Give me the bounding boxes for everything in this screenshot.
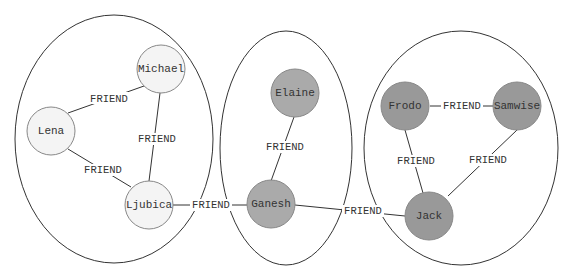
- node-lena[interactable]: Lena: [27, 107, 75, 155]
- node-ganesh[interactable]: Ganesh: [247, 180, 295, 228]
- node-label: Lena: [38, 125, 65, 137]
- edge-label: FRIEND: [192, 199, 230, 211]
- node-jack[interactable]: Jack: [405, 192, 453, 240]
- edge-label: FRIEND: [344, 205, 382, 217]
- node-label: Frodo: [388, 100, 421, 112]
- node-label: Elaine: [275, 87, 315, 99]
- node-samwise[interactable]: Samwise: [493, 82, 541, 130]
- node-frodo[interactable]: Frodo: [381, 82, 429, 130]
- community-cluster-3: [364, 31, 558, 265]
- edge-label: FRIEND: [84, 164, 122, 176]
- node-label: Ljubica: [126, 199, 173, 211]
- node-label: Jack: [416, 210, 443, 222]
- node-elaine[interactable]: Elaine: [271, 69, 319, 117]
- node-michael[interactable]: Michael: [137, 45, 185, 93]
- edge-label: FRIEND: [266, 141, 304, 153]
- friendship-graph: FRIEND FRIEND FRIEND FRIEND FRIEND FRIEN…: [0, 0, 578, 280]
- node-label: Ganesh: [251, 198, 291, 210]
- edge-label: FRIEND: [469, 154, 507, 166]
- node-ljubica[interactable]: Ljubica: [125, 181, 173, 229]
- node-label: Samwise: [494, 100, 540, 112]
- edge-label: FRIEND: [90, 93, 128, 105]
- edge-label: FRIEND: [443, 100, 481, 112]
- node-label: Michael: [138, 63, 184, 75]
- edge-label: FRIEND: [397, 155, 435, 167]
- edge-label: FRIEND: [138, 133, 176, 145]
